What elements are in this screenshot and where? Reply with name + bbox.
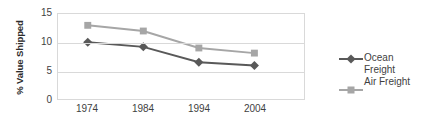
legend-entry[interactable]: Air Freight (338, 76, 436, 97)
data-point-marker (195, 45, 202, 52)
legend-entry[interactable]: Ocean Freight (338, 52, 436, 75)
plot-area (57, 13, 305, 100)
y-axis-title: % Value Shipped (14, 8, 25, 108)
data-point-marker (140, 28, 147, 35)
x-axis-tick-label: 1994 (176, 104, 222, 114)
data-point-marker (251, 50, 258, 57)
line-chart: % Value Shipped 151050 1974198419942004 … (0, 0, 436, 136)
legend-marker-icon (338, 52, 364, 66)
series-air-freight (84, 22, 258, 57)
gridline (58, 72, 304, 73)
plot-series-layer (58, 14, 304, 99)
series-line (88, 42, 255, 65)
x-axis-tick-label: 2004 (232, 104, 278, 114)
gridline (58, 43, 304, 44)
x-axis-tick-labels: 1974198419942004 (57, 104, 305, 124)
data-point-marker (84, 22, 91, 29)
y-axis-tick-label: 15 (28, 8, 52, 18)
y-axis-tick-labels: 151050 (28, 0, 52, 136)
series-line (88, 25, 255, 53)
y-axis-tick-label: 5 (28, 66, 52, 76)
x-axis-tick-label: 1984 (120, 104, 166, 114)
legend-label: Air Freight (364, 76, 436, 88)
chart-legend: Ocean FreightAir Freight (338, 52, 436, 98)
y-axis-tick-label: 0 (28, 95, 52, 105)
legend-label: Ocean Freight (364, 52, 436, 75)
data-point-marker (250, 61, 259, 70)
legend-marker-icon (338, 83, 364, 97)
data-point-marker (194, 58, 203, 67)
y-axis-tick-label: 10 (28, 37, 52, 47)
x-axis-tick-label: 1974 (64, 104, 110, 114)
